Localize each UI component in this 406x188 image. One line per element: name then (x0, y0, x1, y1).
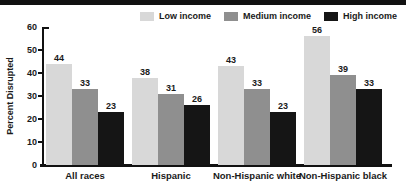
bar-medium-income (72, 89, 98, 165)
bar-value-label: 39 (328, 64, 358, 74)
bar-value-label: 26 (182, 94, 212, 104)
y-axis-top-cap (44, 27, 49, 29)
bar-value-label: 23 (268, 101, 298, 111)
bar-medium-income (244, 89, 270, 165)
bar-value-label: 33 (354, 78, 384, 88)
y-tick-mark (38, 95, 42, 97)
bar-high-income (184, 105, 210, 165)
y-tick-mark (38, 72, 42, 74)
bar-value-label: 33 (242, 78, 272, 88)
category-label: Hispanic (151, 170, 191, 181)
bar-value-label: 33 (70, 78, 100, 88)
bar-low-income (46, 64, 72, 165)
bar-high-income (98, 112, 124, 165)
bar-chart-figure: Low incomeMedium incomeHigh income Perce… (0, 0, 406, 188)
bar-medium-income (158, 94, 184, 165)
bar-value-label: 23 (96, 101, 126, 111)
category-label: All races (65, 170, 105, 181)
bar-value-label: 43 (216, 55, 246, 65)
bar-low-income (304, 36, 330, 165)
bar-value-label: 31 (156, 83, 186, 93)
y-tick-label: 50 (13, 45, 37, 56)
bar-low-income (132, 78, 158, 165)
bar-high-income (270, 112, 296, 165)
bar-medium-income (330, 75, 356, 165)
y-tick-mark (38, 118, 42, 120)
y-axis-line (42, 27, 44, 167)
bar-value-label: 56 (302, 25, 332, 35)
plot-area: 0102030405060443323All races383126Hispan… (0, 0, 406, 188)
bar-low-income (218, 66, 244, 165)
y-tick-label: 60 (13, 22, 37, 33)
y-tick-label: 20 (13, 114, 37, 125)
y-tick-label: 30 (13, 91, 37, 102)
category-label: Non-Hispanic black (299, 170, 387, 181)
y-tick-label: 10 (13, 137, 37, 148)
y-tick-mark (38, 141, 42, 143)
y-tick-label: 40 (13, 68, 37, 79)
y-tick-mark (38, 49, 42, 51)
bar-value-label: 38 (130, 67, 160, 77)
category-label: Non-Hispanic white (213, 170, 301, 181)
y-tick-label: 0 (13, 160, 37, 171)
bar-high-income (356, 89, 382, 165)
bar-value-label: 44 (44, 53, 74, 63)
